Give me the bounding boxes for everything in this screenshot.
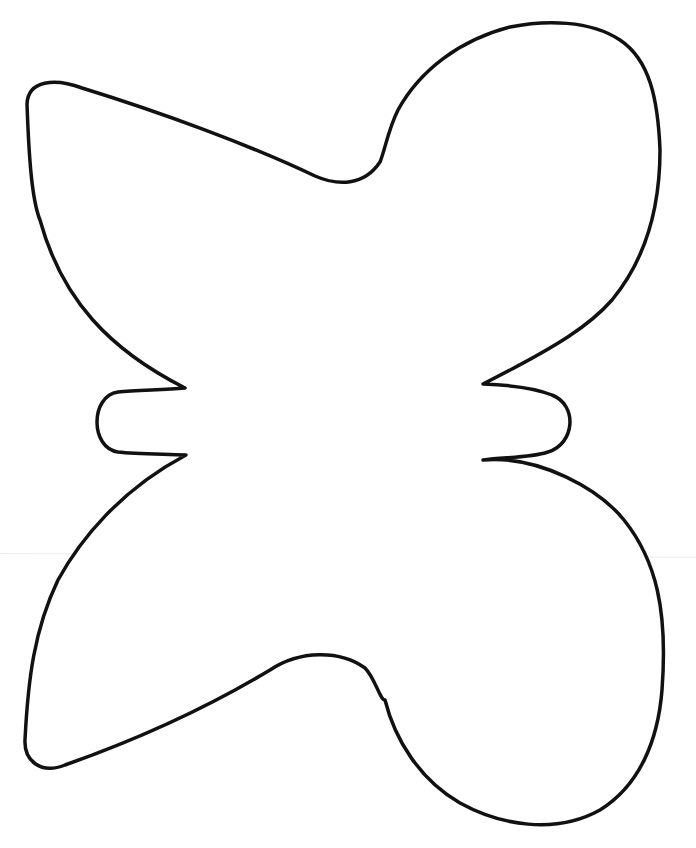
template-canvas [0, 0, 696, 848]
butterfly-outline-path [25, 23, 664, 825]
butterfly-outline-icon [0, 0, 696, 848]
